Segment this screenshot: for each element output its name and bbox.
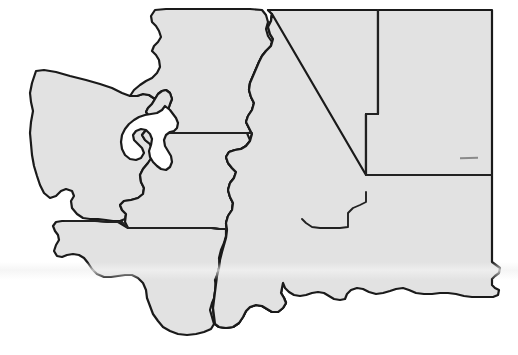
region-northeast[interactable]: [366, 10, 492, 175]
washington-state-map: [0, 0, 518, 355]
regions-group: [30, 9, 500, 335]
region-south-coast[interactable]: [53, 221, 226, 335]
map-canvas: [0, 0, 518, 355]
border-border-olympic-south-coast: [65, 221, 122, 222]
